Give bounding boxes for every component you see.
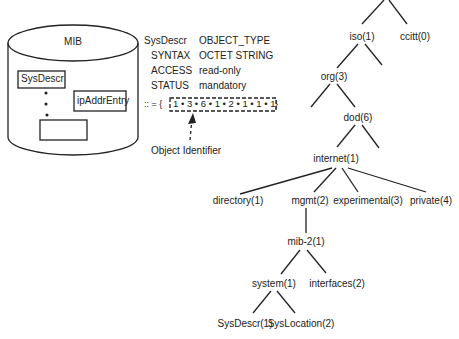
node-mgmt: mgmt(2): [291, 195, 328, 207]
syntax-value: OCTET STRING: [199, 50, 273, 62]
assign-prefix: :: = {: [144, 98, 162, 110]
node-directory: directory(1): [213, 195, 264, 207]
status-key: STATUS: [151, 80, 189, 92]
assign-suffix: }: [275, 98, 278, 110]
oid-caption: Object Identifier: [151, 145, 221, 157]
mib-title: MIB: [64, 36, 82, 48]
node-private: private(4): [410, 195, 452, 207]
node-syslocation: SysLocation(2): [268, 318, 335, 330]
definition-name: SysDescr: [144, 35, 187, 47]
node-interfaces: interfaces(2): [309, 278, 365, 290]
node-mib2: mib-2(1): [287, 236, 324, 248]
mib-entry-sysdescr: SysDescr: [21, 73, 64, 85]
node-internet: internet(1): [313, 153, 359, 165]
definition-type: OBJECT_TYPE: [199, 35, 270, 47]
empty-box: [40, 120, 87, 140]
access-value: read-only: [199, 65, 241, 77]
access-key: ACCESS: [151, 65, 192, 77]
node-ccitt: ccitt(0): [400, 31, 430, 43]
node-sysdescr: SysDescr(1): [217, 318, 272, 330]
node-iso: iso(1): [349, 31, 374, 43]
status-value: mandatory: [199, 80, 246, 92]
node-system: system(1): [252, 278, 296, 290]
node-experimental: experimental(3): [333, 195, 402, 207]
node-org: org(3): [321, 71, 348, 83]
syntax-key: SYNTAX: [151, 50, 190, 62]
oid-value: 1 • 3 • 6 • 1 • 2 • 1 • 1 • 1: [173, 98, 276, 110]
mib-entry-ipaddrentry: ipAddrEntry: [77, 95, 129, 107]
node-dod: dod(6): [344, 112, 373, 124]
